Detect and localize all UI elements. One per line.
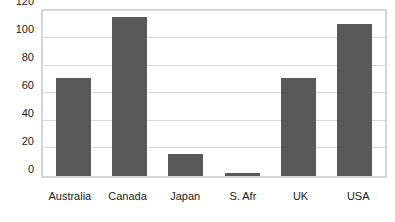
y-axis-tick-label: 100 — [0, 24, 34, 35]
x-axis-label-usa: USA — [347, 190, 370, 202]
x-axis-label-canada: Canada — [108, 190, 147, 202]
bar-slot — [158, 10, 214, 176]
x-axis-label-australia: Australia — [48, 190, 91, 202]
bar-japan — [168, 154, 203, 176]
x-axis-label-s-afr: S. Afr — [229, 190, 256, 202]
y-axis-tick-label: 60 — [0, 80, 34, 91]
bar-slot — [214, 10, 270, 176]
x-axis-slot: Japan — [156, 186, 214, 204]
x-axis-slot: USA — [329, 186, 387, 204]
bar-slot — [270, 10, 326, 176]
x-axis-slot: S. Afr — [214, 186, 272, 204]
bar-slot — [45, 10, 101, 176]
x-axis-label-japan: Japan — [170, 190, 200, 202]
plot-area — [41, 9, 387, 178]
bar-s-afr — [225, 173, 260, 176]
bar-australia — [56, 78, 91, 176]
bar-uk — [281, 78, 316, 176]
x-axis-slot: Canada — [99, 186, 157, 204]
x-axis: Australia Canada Japan S. Afr UK USA — [41, 182, 387, 208]
y-axis: 120 100 80 60 40 20 0 — [0, 0, 40, 182]
bars-layer — [43, 10, 385, 176]
y-axis-tick-label: 0 — [0, 164, 34, 175]
bar-canada — [112, 17, 147, 176]
bar-slot — [101, 10, 157, 176]
x-axis-label-uk: UK — [293, 190, 308, 202]
bar-usa — [337, 24, 372, 176]
bar-chart: 120 100 80 60 40 20 0 Australia Canada — [0, 0, 395, 222]
y-axis-tick-label: 120 — [0, 0, 34, 7]
y-axis-tick-label: 80 — [0, 52, 34, 63]
y-axis-tick-label: 20 — [0, 136, 34, 147]
x-axis-slot: Australia — [41, 186, 99, 204]
x-axis-slot: UK — [272, 186, 330, 204]
y-axis-tick-label: 40 — [0, 108, 34, 119]
bar-slot — [327, 10, 383, 176]
